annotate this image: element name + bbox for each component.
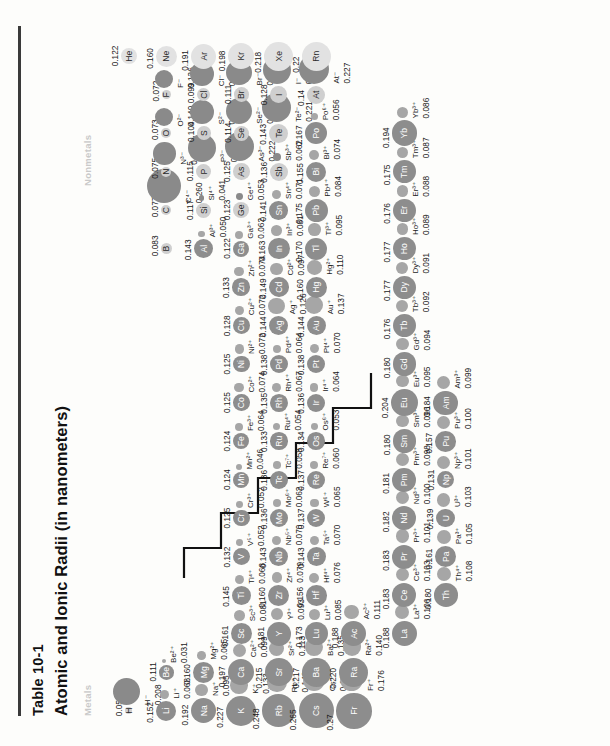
atom-symbol: Pt: [311, 360, 321, 368]
atom-radius-value: 0.160: [145, 48, 155, 69]
atom-symbol: Ne: [161, 51, 171, 62]
ion-circle-ce: [396, 568, 410, 582]
ion-circle-re: [310, 461, 318, 469]
ion-symbol: Pt⁴⁺: [322, 338, 331, 353]
ion-circle-tb: [396, 300, 408, 312]
ion-radius-value: 0.092: [421, 291, 431, 312]
ion-symbol: Ta⁵⁺: [322, 530, 331, 546]
ion-radius-value: 0.041: [217, 180, 227, 201]
atom-radius-value: 0.167: [294, 126, 304, 147]
atom-circle-la: La: [392, 621, 417, 646]
atom-radius-value: 0.125: [222, 354, 232, 375]
atom-radius-value: 0.22: [291, 57, 301, 73]
ion-symbol: Mn²⁺: [245, 452, 254, 470]
ion-symbol: In³⁺: [285, 223, 294, 236]
ion-symbol: Pb⁴⁺: [323, 179, 332, 196]
atom-circle-sm: Sm: [393, 429, 417, 453]
atom-symbol: Cu: [236, 320, 246, 331]
ion-symbol: Ge⁴⁺: [246, 182, 255, 200]
atom-circle-zn: Zn: [232, 278, 250, 296]
ion-circle-os: [311, 423, 318, 430]
atom-radius-value: 0.117: [185, 200, 195, 220]
atom-radius-value: 0.111: [223, 85, 233, 105]
ion-symbol: Ce³⁺: [412, 564, 421, 581]
atom-circle-br: Br: [234, 87, 249, 102]
ion-symbol: U³⁺: [453, 495, 462, 507]
ion-circle-ti: [235, 575, 244, 584]
ion-circle-zr: [272, 572, 282, 582]
legend-nonmetals: Nonmetals: [82, 135, 93, 186]
atom-circle-na: Na: [191, 698, 216, 723]
atom-symbol: Zr: [274, 591, 284, 599]
legend-metals: Metals: [82, 685, 93, 716]
table-sheet: Table 10-1 Atomic and Ionic Radii (in na…: [0, 0, 610, 746]
atom-symbol: Ru: [274, 436, 284, 447]
atom-circle-hg: Hg: [306, 277, 327, 298]
ion-circle-yb: [397, 107, 408, 118]
atom-circle-re: Re: [307, 471, 325, 489]
ion-radius-value: 0.100: [463, 408, 473, 429]
atom-symbol: Li: [161, 707, 171, 714]
atom-symbol: Re: [311, 474, 321, 485]
atom-circle-tc: Tc: [270, 471, 288, 489]
ion-symbol: Bi³⁺: [322, 146, 331, 160]
atom-circle-as: As: [233, 164, 250, 181]
ion-symbol: Cr³⁺: [246, 493, 255, 508]
atom-symbol: W: [311, 514, 321, 522]
atom-symbol: Ca: [236, 667, 246, 678]
atom-radius-value: 0.122: [222, 238, 232, 259]
atom-symbol: As: [236, 167, 246, 177]
ion-radius-value: 0.087: [421, 137, 431, 158]
atom-radius-value: 0.183: [381, 589, 391, 610]
ion-circle-np: [437, 456, 450, 469]
ion-radius-value: 0.064: [331, 371, 341, 392]
atom-circle-li: Li: [156, 701, 176, 721]
ion-radius-value: 0.076: [332, 562, 342, 583]
ion-circle-er: [397, 185, 409, 197]
atom-circle-np: Np: [437, 471, 454, 488]
atom-symbol: Sc: [236, 629, 246, 639]
atom-circle-nb: Nb: [269, 547, 288, 566]
atom-circle-al: Al: [194, 239, 213, 258]
ion-circle-ta: [310, 536, 319, 545]
atom-radius-value: 0.220: [328, 668, 338, 689]
atom-radius-value: 0.217: [291, 668, 301, 689]
atom-radius-value: 0.143: [258, 124, 268, 145]
atom-radius-value: 0.177: [382, 280, 392, 301]
ion-radius-value: 0.088: [421, 176, 431, 197]
atom-symbol: Fe: [236, 436, 246, 446]
ion-circle-mo: [273, 499, 281, 507]
ion-circle-hf: [309, 573, 319, 583]
atom-symbol: Rb: [274, 705, 284, 716]
ion-radius-value: 0.056: [331, 99, 341, 120]
atom-radius-value: 0.111: [148, 662, 158, 682]
atom-symbol: Y: [274, 631, 284, 637]
atom-circle-h: H: [125, 707, 132, 714]
atom-circle-er: Er: [393, 199, 416, 222]
atom-symbol: Np: [441, 474, 451, 485]
atom-symbol: Ir: [311, 400, 321, 405]
ion-symbol: Mo⁶⁺: [284, 489, 293, 507]
atom-circle-lu: Lu: [305, 622, 328, 645]
ion-symbol: Sc³⁺: [248, 605, 257, 621]
atom-radius-value: 0.138: [259, 355, 269, 376]
ion-symbol: I⁻: [294, 78, 303, 84]
ion-symbol: Tc⁷⁺: [284, 454, 293, 469]
atom-symbol: V: [236, 554, 246, 560]
ion-symbol: V⁵⁺: [246, 533, 255, 546]
atom-radius-value: 0.135: [259, 393, 269, 414]
atom-circle-ga: Ga: [233, 241, 249, 257]
atom-circle-w: W: [307, 509, 325, 527]
atom-radius-value: 0.143: [296, 547, 306, 568]
atom-symbol: Cl: [199, 91, 209, 99]
atom-circle-fr: Fr: [336, 693, 372, 729]
atom-symbol: Gd: [399, 359, 409, 370]
ion-symbol: Po⁶⁺: [321, 103, 330, 120]
atom-circle-pm: Pm: [392, 468, 416, 492]
ion-circle-cd: [270, 263, 283, 276]
atom-symbol: Ce: [399, 590, 409, 601]
ion-circle-th: [437, 567, 451, 581]
atom-radius-value: 0.156: [295, 587, 305, 608]
atom-radius-value: 0.194: [381, 127, 391, 148]
atom-radius-value: 0.204: [380, 397, 390, 418]
